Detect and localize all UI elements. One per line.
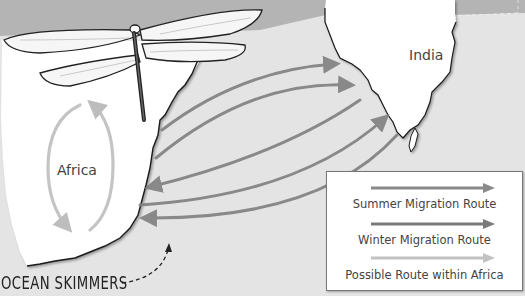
- legend-label-africa: Possible Route within Africa: [327, 268, 522, 282]
- migration-map: India Africa OCEAN SKIMMERS Summer Migra…: [0, 0, 525, 296]
- pointer-arrowhead: [165, 243, 172, 252]
- india-landmass: [325, 0, 456, 152]
- winter-route-legend-icon: [369, 218, 497, 230]
- africa-label: Africa: [57, 162, 97, 178]
- africa-route-legend-icon: [369, 252, 497, 264]
- india-label: India: [409, 47, 443, 63]
- summer-route-2: [156, 85, 350, 158]
- legend: Summer Migration Route Winter Migration …: [326, 171, 523, 291]
- legend-label-winter: Winter Migration Route: [327, 233, 522, 247]
- legend-label-summer: Summer Migration Route: [327, 197, 522, 211]
- summer-route-legend-icon: [369, 182, 497, 194]
- species-label: OCEAN SKIMMERS: [1, 273, 128, 293]
- pointer-dashed-line: [122, 250, 168, 283]
